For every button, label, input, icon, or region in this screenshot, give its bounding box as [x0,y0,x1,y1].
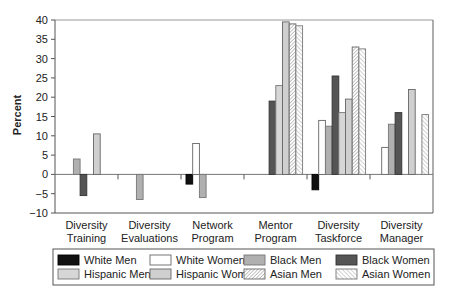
legend-swatch [58,269,79,279]
y-tick-label: 5 [42,149,48,161]
y-tick-label: 25 [36,72,48,84]
legend-swatch [336,255,357,265]
legend-label: Asian Men [270,268,322,280]
x-tick-label: Diversity [380,219,423,231]
y-axis-label: Percent [11,94,23,135]
x-tick-label: Taskforce [315,232,362,244]
legend-label: White Women [176,254,245,266]
bar-asian-women [422,115,429,175]
legend-swatch [58,255,79,265]
legend-item-black-men: Black Men [244,254,321,266]
legend-item-asian-men: Asian Men [244,268,322,280]
x-tick-label: Program [254,232,296,244]
bar-asian-men [289,24,296,175]
bar-white-women [319,120,326,174]
x-tick-label: Manager [380,232,424,244]
legend-label: White Men [84,254,137,266]
legend-item-white-men: White Men [58,254,137,266]
legend: White MenWhite WomenBlack MenBlack Women… [53,249,434,285]
y-tick-label: −10 [29,207,48,219]
legend-swatch [150,255,171,265]
y-tick-label: 15 [36,111,48,123]
bar-black-men [388,124,395,174]
bar-black-women [80,174,87,195]
x-tick-label: Diversity [65,219,108,231]
y-tick-label: 30 [36,53,48,65]
x-tick-label: Network [192,219,233,231]
bar-hispanic-men [339,113,346,175]
y-tick-label: 20 [36,91,48,103]
x-tick-label: Program [191,232,233,244]
x-axis: DiversityTrainingDiversityEvaluationsNet… [65,174,423,244]
y-tick-label: 0 [42,168,48,180]
legend-label: Hispanic Men [84,268,151,280]
y-axis: 4035302520151050−5−10 [29,14,55,219]
legend-label: Black Women [362,254,430,266]
bar-white-men [186,174,193,184]
bar-hispanic-men [276,86,283,175]
y-tick-label: −5 [35,188,48,200]
x-tick-label: Diversity [128,219,171,231]
bar-asian-men [352,47,359,174]
y-tick-label: 35 [36,33,48,45]
bars [73,22,428,200]
legend-swatch [244,255,265,265]
y-tick-label: 40 [36,14,48,26]
bar-black-women [269,101,276,174]
bar-black-women [395,113,402,175]
y-tick-label: 10 [36,130,48,142]
bar-black-men [199,174,206,197]
legend-swatch [244,269,265,279]
bar-asian-women [296,26,303,175]
bar-hispanic-women [283,22,290,175]
bar-white-men [312,174,319,189]
x-tick-label: Diversity [317,219,360,231]
bar-black-women [332,76,339,174]
legend-label: Black Men [270,254,321,266]
legend-swatch [150,269,171,279]
legend-item-white-women: White Women [150,254,245,266]
bar-black-men [325,126,332,174]
bar-hispanic-women [94,134,101,175]
legend-item-asian-women: Asian Women [336,268,430,280]
legend-swatch [336,269,357,279]
bar-asian-women [359,49,366,174]
legend-label: Asian Women [362,268,430,280]
plot-area [55,20,433,213]
bar-hispanic-women [346,99,353,174]
legend-item-hispanic-women: Hispanic Women [150,268,259,280]
legend-item-black-women: Black Women [336,254,430,266]
x-tick-label: Mentor [258,219,293,231]
bar-white-women [193,144,200,175]
x-tick-label: Evaluations [121,232,178,244]
bar-black-men [73,159,80,174]
bar-chart: 4035302520151050−5−10 DiversityTrainingD… [0,0,456,301]
bar-black-men [136,174,143,199]
x-tick-label: Training [67,232,106,244]
legend-item-hispanic-men: Hispanic Men [58,268,151,280]
bar-white-women [382,147,389,174]
bar-hispanic-women [409,90,416,175]
